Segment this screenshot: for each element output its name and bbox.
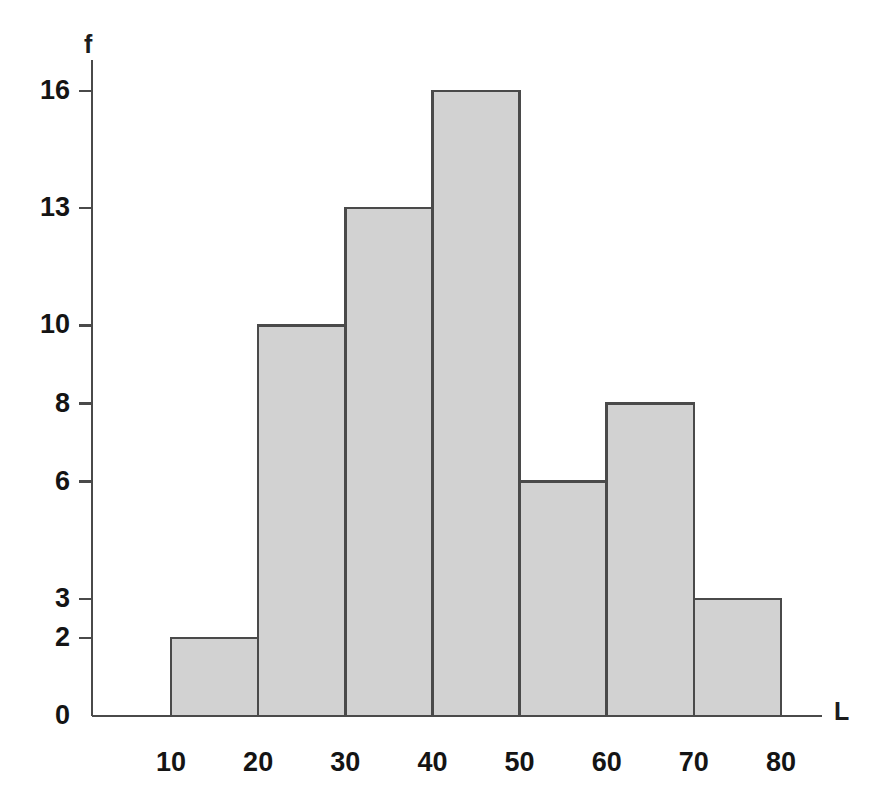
- x-tick-label: 10: [131, 749, 211, 776]
- y-tick-label: 3: [55, 585, 70, 612]
- histogram-bar: [607, 404, 694, 717]
- y-tick-label: 6: [55, 468, 70, 495]
- histogram-bar: [694, 599, 781, 716]
- histogram-bar: [171, 638, 258, 716]
- x-axis-label: L: [834, 699, 849, 724]
- histogram-bar: [432, 91, 519, 716]
- y-tick-label: 13: [40, 194, 70, 221]
- histogram-plot: [0, 0, 890, 803]
- x-tick-label: 60: [567, 749, 647, 776]
- x-tick-label: 70: [654, 749, 734, 776]
- x-tick-label: 20: [218, 749, 298, 776]
- y-tick-label: 0: [55, 702, 70, 729]
- histogram-bar: [345, 208, 432, 716]
- y-tick-label: 8: [55, 390, 70, 417]
- x-tick-label: 80: [741, 749, 821, 776]
- y-tick-label: 2: [55, 624, 70, 651]
- y-tick-label: 10: [40, 311, 70, 338]
- x-tick-label: 50: [480, 749, 560, 776]
- y-tick-label: 16: [40, 77, 70, 104]
- histogram-bar: [258, 325, 345, 716]
- bars-group: [171, 91, 781, 716]
- histogram-figure: f L 023681013161020304050607080: [0, 0, 890, 803]
- x-tick-label: 30: [305, 749, 385, 776]
- histogram-bar: [520, 482, 607, 716]
- x-tick-label: 40: [392, 749, 472, 776]
- y-axis-label: f: [84, 32, 92, 57]
- tick-marks-group: [79, 91, 92, 638]
